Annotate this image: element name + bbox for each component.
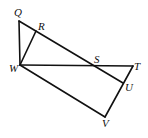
label-V: V bbox=[102, 117, 110, 129]
label-T: T bbox=[134, 60, 141, 72]
segment-QW bbox=[19, 21, 20, 65]
segment-WR bbox=[20, 31, 36, 65]
label-Q: Q bbox=[14, 6, 22, 18]
label-S: S bbox=[94, 53, 100, 65]
label-R: R bbox=[37, 20, 45, 32]
segment-WT bbox=[20, 65, 133, 66]
label-U: U bbox=[125, 81, 134, 93]
geometry-diagram: Q R S T U V W bbox=[0, 0, 148, 138]
label-W: W bbox=[9, 62, 19, 74]
segment-WV bbox=[20, 65, 105, 117]
